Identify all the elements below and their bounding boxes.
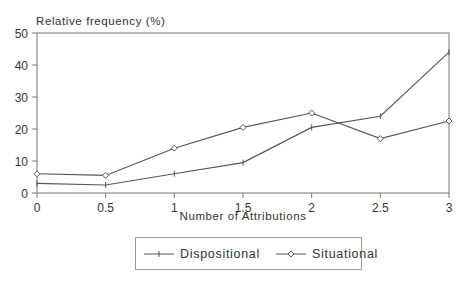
y-axis: 01020304050: [15, 27, 37, 201]
diamond-marker-icon: [103, 172, 109, 178]
series-lines: [34, 49, 452, 188]
plot-border: [37, 33, 449, 193]
series-situational: [34, 110, 452, 178]
legend-label: Dispositional: [180, 247, 260, 261]
diamond-marker-icon: [309, 110, 315, 116]
plus-marker-line-icon: [144, 249, 174, 259]
plot-frame: [37, 33, 449, 193]
y-tick-label: 10: [15, 155, 29, 169]
diamond-marker-icon: [34, 171, 40, 177]
diamond-marker-icon: [446, 118, 452, 124]
y-axis-title: Relative frequency (%): [36, 15, 166, 27]
x-tick-label: 2: [308, 201, 315, 215]
diamond-marker-icon: [240, 124, 246, 130]
y-tick-label: 30: [15, 91, 29, 105]
legend-item-dispositional: Dispositional: [144, 247, 260, 261]
x-axis-title: Number of Attributions: [180, 210, 307, 222]
x-tick-label: 0.5: [97, 201, 114, 215]
diamond-marker-icon: [377, 136, 383, 142]
x-tick-label: 3: [446, 201, 453, 215]
x-tick-label: 1: [171, 201, 178, 215]
legend: Dispositional Situational: [135, 237, 362, 270]
x-tick-label: 0: [34, 201, 41, 215]
diamond-marker-line-icon: [276, 249, 306, 259]
y-tick-label: 20: [15, 123, 29, 137]
diamond-marker-icon: [171, 145, 177, 151]
y-tick-label: 40: [15, 59, 29, 73]
legend-item-situational: Situational: [276, 247, 378, 261]
series-dispositional: [37, 49, 449, 188]
y-tick-label: 50: [15, 27, 29, 41]
y-tick-label: 0: [21, 187, 28, 201]
legend-label: Situational: [312, 247, 378, 261]
x-tick-label: 2.5: [372, 201, 389, 215]
